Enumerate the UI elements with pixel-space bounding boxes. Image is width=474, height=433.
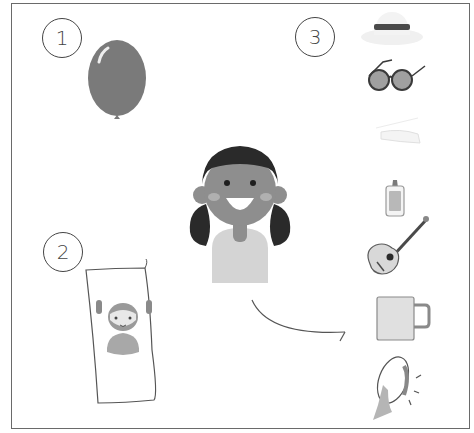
girl-figure <box>190 146 290 283</box>
illustration-scene <box>0 0 474 433</box>
hairpin-icon <box>376 118 420 143</box>
guitar-icon <box>368 216 429 274</box>
sunglasses-icon <box>369 60 425 90</box>
balloon-icon <box>88 40 146 119</box>
arrow-icon <box>252 300 345 341</box>
girl-drawing-paper <box>86 259 156 403</box>
glue-bottle-icon <box>386 180 404 216</box>
mug-icon <box>377 297 429 340</box>
hat-icon <box>361 12 423 45</box>
tambourine-icon <box>372 353 421 420</box>
